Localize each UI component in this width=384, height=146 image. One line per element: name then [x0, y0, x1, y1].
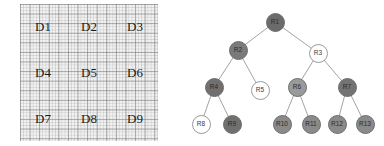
grid-cell-label: D9 [127, 112, 143, 125]
grid-cell-label: D4 [35, 66, 51, 79]
tree-node-label: R10 [276, 121, 288, 128]
tree-node-r6[interactable]: R6 [288, 78, 307, 97]
figure-canvas: D1D2D3D4D5D6D7D8D9 R1R2R3R4R5R6R7R8R9R10… [0, 0, 384, 146]
grid-cell-d5[interactable]: D5 [66, 50, 112, 96]
tree-node-label: R13 [359, 121, 371, 128]
grid-cell-label: D5 [81, 66, 97, 79]
grid-cell-label: D8 [81, 112, 97, 125]
tree-node-label: R4 [210, 84, 218, 91]
grid-cell-d6[interactable]: D6 [112, 50, 158, 96]
tree-node-label: R8 [197, 121, 205, 128]
grid-cell-d9[interactable]: D9 [112, 95, 158, 141]
tree-node-label: R1 [271, 19, 279, 26]
region-tree-panel: R1R2R3R4R5R6R7R8R9R10R11R12R13 [192, 0, 384, 146]
data-grid-cells: D1D2D3D4D5D6D7D8D9 [20, 4, 158, 141]
tree-node-label: R2 [234, 47, 242, 54]
tree-node-r1[interactable]: R1 [266, 13, 285, 32]
grid-cell-d4[interactable]: D4 [20, 50, 66, 96]
tree-node-r10[interactable]: R10 [273, 115, 292, 134]
tree-node-label: R7 [343, 84, 351, 91]
grid-cell-d8[interactable]: D8 [66, 95, 112, 141]
tree-node-r3[interactable]: R3 [309, 44, 328, 63]
tree-node-r4[interactable]: R4 [205, 78, 224, 97]
tree-node-r13[interactable]: R13 [356, 115, 375, 134]
tree-node-label: R11 [305, 121, 316, 128]
tree-node-r8[interactable]: R8 [192, 115, 211, 134]
tree-node-r11[interactable]: R11 [302, 115, 321, 134]
grid-cell-d1[interactable]: D1 [20, 4, 66, 50]
tree-node-r2[interactable]: R2 [229, 41, 248, 60]
tree-node-r7[interactable]: R7 [338, 78, 357, 97]
tree-node-r9[interactable]: R9 [223, 115, 242, 134]
tree-node-label: R6 [293, 84, 301, 91]
grid-cell-label: D7 [35, 112, 51, 125]
tree-node-label: R12 [331, 121, 343, 128]
grid-cell-d3[interactable]: D3 [112, 4, 158, 50]
grid-cell-d7[interactable]: D7 [20, 95, 66, 141]
data-grid-panel: D1D2D3D4D5D6D7D8D9 [20, 4, 158, 141]
grid-cell-label: D1 [35, 20, 51, 33]
tree-node-r12[interactable]: R12 [328, 115, 347, 134]
tree-node-r5[interactable]: R5 [251, 81, 270, 100]
tree-node-label: R5 [256, 87, 264, 94]
grid-cell-label: D3 [127, 20, 143, 33]
grid-cell-label: D6 [127, 66, 143, 79]
tree-node-label: R9 [228, 121, 236, 128]
grid-cell-d2[interactable]: D2 [66, 4, 112, 50]
tree-node-label: R3 [314, 50, 322, 57]
grid-cell-label: D2 [81, 20, 97, 33]
